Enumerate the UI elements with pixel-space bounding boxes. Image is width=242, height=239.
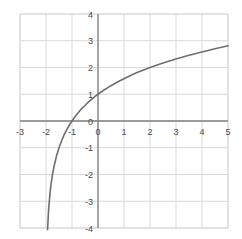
chart-background	[0, 0, 242, 239]
y-tick-label: 4	[88, 10, 93, 20]
y-tick-label: 0	[88, 117, 93, 127]
x-tick-label: -1	[68, 127, 76, 137]
y-tick-label: -2	[85, 170, 93, 180]
x-tick-label: -2	[42, 127, 50, 137]
x-tick-label: -3	[16, 127, 24, 137]
x-tick-label: 5	[225, 127, 230, 137]
y-tick-label: -3	[85, 197, 93, 207]
y-tick-label: -4	[85, 224, 93, 234]
y-tick-label: 3	[88, 36, 93, 46]
chart-figure: -3-2-1012345 43210-1-2-3-4	[0, 0, 242, 239]
x-tick-label: 1	[121, 127, 126, 137]
x-tick-label: 2	[147, 127, 152, 137]
x-tick-label: 0	[95, 127, 100, 137]
y-tick-label: -1	[85, 143, 93, 153]
y-tick-label: 2	[88, 63, 93, 73]
x-tick-label: 3	[173, 127, 178, 137]
x-tick-label: 4	[199, 127, 204, 137]
logarithmic-function-plot: -3-2-1012345 43210-1-2-3-4	[0, 0, 242, 239]
